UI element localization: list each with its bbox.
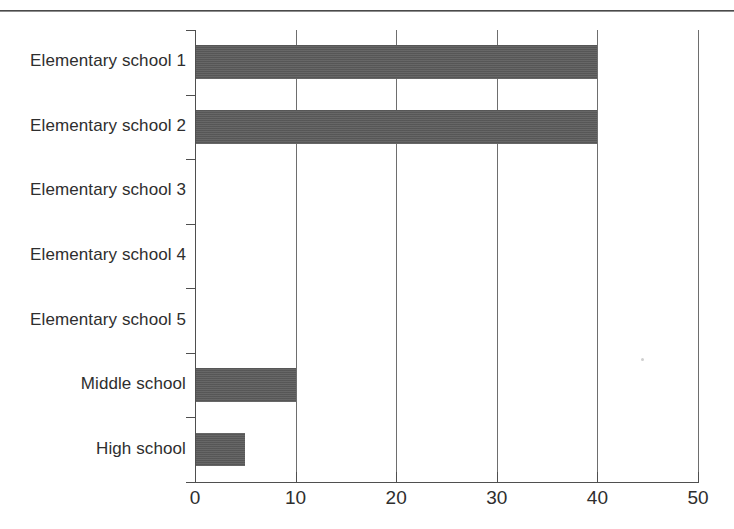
- x-axis-tick: [597, 472, 598, 483]
- gridline-40: [597, 30, 598, 482]
- x-axis-tick: [497, 472, 498, 483]
- category-label: Middle school: [2, 374, 186, 394]
- y-axis-tick: [186, 353, 196, 354]
- gridline-20: [396, 30, 397, 482]
- y-axis-tick: [186, 417, 196, 418]
- y-axis-tick: [186, 95, 196, 96]
- category-label: Elementary school 1: [2, 51, 186, 71]
- x-axis-tick: [698, 472, 699, 483]
- bar: [195, 368, 296, 402]
- y-axis-tick: [186, 159, 196, 160]
- x-axis-tick: [296, 472, 297, 483]
- bar: [195, 45, 597, 79]
- x-axis-tick-label: 10: [266, 487, 326, 509]
- category-label: High school: [2, 439, 186, 459]
- category-label: Elementary school 3: [2, 180, 186, 200]
- y-axis-line: [195, 30, 196, 483]
- gridline-10: [296, 30, 297, 482]
- category-axis-labels: Elementary school 1Elementary school 2El…: [0, 0, 186, 529]
- y-axis-tick: [186, 288, 196, 289]
- gridline-50: [698, 30, 699, 482]
- bar: [195, 433, 245, 467]
- x-axis-tick-label: 0: [165, 487, 225, 509]
- category-label: Elementary school 5: [2, 310, 186, 330]
- y-axis-tick: [186, 30, 196, 31]
- bar-chart-figure: Elementary school 1Elementary school 2El…: [0, 0, 734, 529]
- y-axis-tick: [186, 224, 196, 225]
- x-axis-tick-label: 50: [668, 487, 728, 509]
- x-axis-tick-label: 40: [567, 487, 627, 509]
- gridline-30: [497, 30, 498, 482]
- x-axis-tick: [195, 472, 196, 483]
- category-label: Elementary school 2: [2, 116, 186, 136]
- x-axis-tick: [396, 472, 397, 483]
- plot-area: [195, 30, 698, 482]
- x-axis-tick-label: 20: [366, 487, 426, 509]
- category-label: Elementary school 4: [2, 245, 186, 265]
- x-axis-line: [195, 482, 699, 483]
- x-axis-tick-label: 30: [467, 487, 527, 509]
- bar: [195, 110, 597, 144]
